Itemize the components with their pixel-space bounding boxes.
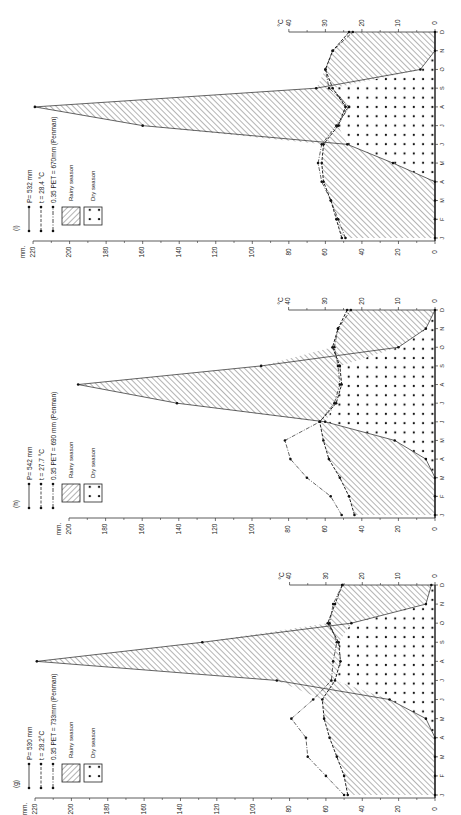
month-tick-label: J xyxy=(439,698,445,701)
month-tick-label: M xyxy=(439,475,445,480)
mm-tick-label: 140 xyxy=(175,523,182,534)
month-tick-label: N xyxy=(439,327,445,331)
mm-tick-label: 40 xyxy=(358,525,365,533)
month-tick-label: J xyxy=(439,420,445,423)
month-tick-label: F xyxy=(439,494,445,498)
mm-unit-label: mm. xyxy=(21,802,28,815)
month-tick-label: J xyxy=(439,679,445,682)
mm-unit-label: mm. xyxy=(55,522,62,535)
pet-legend: 0.35 PET = 733mm (Penman) xyxy=(50,674,58,760)
month-tick-label: M xyxy=(439,438,445,443)
month-tick-label: A xyxy=(439,180,445,184)
mm-tick-label: 160 xyxy=(138,246,145,257)
month-tick-label: O xyxy=(439,620,445,625)
mm-tick-label: 0 xyxy=(431,250,438,254)
mm-tick-label: 160 xyxy=(138,523,145,534)
mm-tick-label: 60 xyxy=(322,805,329,813)
climate-panel-g: 020406080100120140160180200220mm.0102030… xyxy=(12,572,445,815)
rainy-legend-swatch xyxy=(62,484,80,502)
month-tick-label: J xyxy=(439,236,445,239)
mm-tick-label: 80 xyxy=(285,805,292,813)
panel-label: (g) xyxy=(12,780,20,788)
month-tick-label: A xyxy=(439,659,445,663)
figure-svg: 020406080100120140160180200220mm.0102030… xyxy=(0,0,461,815)
precipitation-legend: P= 542 mm xyxy=(26,447,33,480)
degc-tick-label: 20 xyxy=(358,572,365,580)
month-tick-label: M xyxy=(439,160,445,165)
degc-tick-label: 10 xyxy=(394,297,401,305)
temperature-legend: t = 27.7 °C xyxy=(38,449,45,480)
panel-label: (h) xyxy=(12,500,20,508)
mm-tick-label: 100 xyxy=(248,246,255,257)
rainy-season-area xyxy=(78,310,354,515)
rainy-legend-swatch xyxy=(62,207,80,225)
rainy-legend-label: Rainy season xyxy=(68,165,74,201)
dry-legend-swatch xyxy=(84,207,102,225)
degc-tick-label: 40 xyxy=(284,297,291,305)
mm-tick-label: 80 xyxy=(284,525,291,533)
mm-tick-label: 40 xyxy=(358,805,365,813)
dry-legend-label: Dry season xyxy=(90,171,96,201)
mm-tick-label: 20 xyxy=(394,805,401,813)
mm-tick-label: 0 xyxy=(431,807,438,811)
month-tick-label: F xyxy=(439,774,445,778)
rainy-legend-swatch xyxy=(62,764,80,782)
dry-legend-label: Dry season xyxy=(90,448,96,478)
mm-tick-label: 120 xyxy=(211,246,218,257)
mm-tick-label: 160 xyxy=(140,803,147,814)
month-tick-label: M xyxy=(439,716,445,721)
month-tick-label: N xyxy=(439,49,445,53)
degc-tick-label: 10 xyxy=(394,572,401,580)
month-tick-label: J xyxy=(439,124,445,127)
degc-tick-label: 20 xyxy=(358,19,365,27)
mm-tick-label: 60 xyxy=(321,525,328,533)
climate-panel-i: 020406080100120140160180200220mm.0102030… xyxy=(12,19,445,258)
month-tick-label: S xyxy=(439,364,445,368)
legend: (i)P= 532 mmt = 28.4 °C0.35 PET = 670mm … xyxy=(12,117,102,233)
mm-tick-label: 20 xyxy=(394,525,401,533)
month-tick-label: A xyxy=(439,457,445,461)
mm-tick-label: 220 xyxy=(31,803,38,814)
rainy-legend-label: Rainy season xyxy=(68,722,74,758)
panel-label: (i) xyxy=(12,225,20,231)
mm-tick-label: 220 xyxy=(29,246,36,257)
degc-tick-label: 40 xyxy=(285,572,292,580)
month-tick-label: J xyxy=(439,402,445,405)
mm-tick-label: 0 xyxy=(431,527,438,531)
month-tick-label: S xyxy=(439,86,445,90)
degc-tick-label: 0 xyxy=(431,574,438,578)
legend: (h)P= 542 mmt = 27.7 °C0.35 PET = 690 mm… xyxy=(12,392,102,510)
precipitation-legend: P= 532 mm xyxy=(26,170,33,203)
mm-tick-label: 120 xyxy=(211,523,218,534)
mm-tick-label: 100 xyxy=(248,523,255,534)
month-tick-label: M xyxy=(439,754,445,759)
degc-tick-label: 30 xyxy=(321,19,328,27)
degc-unit-label: °C xyxy=(277,19,284,27)
degc-tick-label: 30 xyxy=(322,572,329,580)
month-tick-label: A xyxy=(439,105,445,109)
mm-tick-label: 200 xyxy=(67,803,74,814)
degc-tick-label: 10 xyxy=(394,19,401,27)
mm-tick-label: 80 xyxy=(285,248,292,256)
mm-tick-label: 180 xyxy=(103,803,110,814)
mm-tick-label: 20 xyxy=(394,248,401,256)
month-tick-label: J xyxy=(439,513,445,516)
degc-tick-label: 40 xyxy=(285,19,292,27)
degc-unit-label: °C xyxy=(277,297,284,305)
month-tick-label: D xyxy=(439,583,445,587)
month-tick-label: J xyxy=(439,793,445,796)
temperature-legend: t = 28.2°C xyxy=(38,731,45,760)
degc-tick-label: 0 xyxy=(431,299,438,303)
rainy-legend-label: Rainy season xyxy=(68,442,74,478)
mm-tick-label: 200 xyxy=(65,523,72,534)
dry-legend-swatch xyxy=(84,764,102,782)
precipitation-legend: P= 530 mm xyxy=(26,727,33,760)
mm-tick-label: 120 xyxy=(213,803,220,814)
dry-legend-label: Dry season xyxy=(90,728,96,758)
legend: (g)P= 530 mmt = 28.2°C0.35 PET = 733mm (… xyxy=(12,674,102,790)
climate-panel-h: 020406080100120140160180200mm.010203040°… xyxy=(12,297,445,535)
pet-legend: 0.35 PET = 670mm (Penman) xyxy=(50,117,58,203)
pet-legend: 0.35 PET = 690 mm (Penman) xyxy=(50,392,58,480)
mm-tick-label: 40 xyxy=(358,248,365,256)
month-tick-label: D xyxy=(439,30,445,34)
